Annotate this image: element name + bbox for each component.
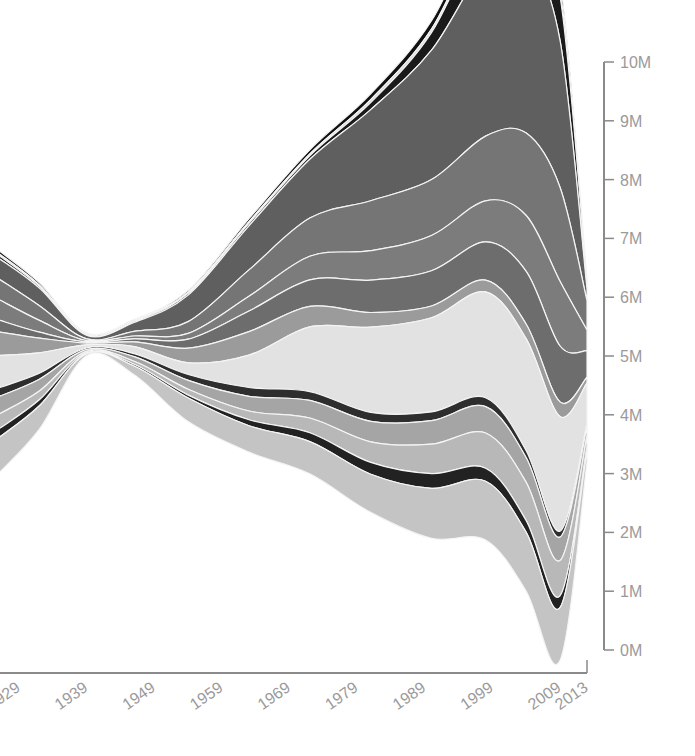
- stream-layers: [0, 0, 587, 665]
- x-tick-label: 1959: [187, 678, 226, 712]
- streamgraph-chart: 0M1M2M3M4M5M6M7M8M9M10M 1929193919491959…: [0, 0, 695, 756]
- x-tick-label: 1929: [0, 678, 23, 712]
- y-tick-label: 9M: [620, 113, 642, 130]
- y-tick-label: 0M: [620, 642, 642, 659]
- x-axis: 1929193919491959196919791989199920092013: [0, 660, 591, 713]
- x-tick-label: 1979: [322, 678, 361, 712]
- x-tick-label: 1949: [119, 678, 158, 712]
- y-tick-label: 2M: [620, 524, 642, 541]
- x-tick-label: 2013: [552, 678, 591, 712]
- y-tick-label: 5M: [620, 348, 642, 365]
- x-tick-label: 1989: [390, 678, 429, 712]
- y-tick-label: 6M: [620, 289, 642, 306]
- y-axis: 0M1M2M3M4M5M6M7M8M9M10M: [604, 54, 651, 659]
- y-tick-label: 7M: [620, 230, 642, 247]
- x-tick-label: 1999: [457, 678, 496, 712]
- y-tick-label: 1M: [620, 583, 642, 600]
- x-tick-label: 1939: [52, 678, 91, 712]
- y-tick-label: 4M: [620, 407, 642, 424]
- y-tick-label: 3M: [620, 466, 642, 483]
- x-tick-label: 1969: [254, 678, 293, 712]
- y-tick-label: 8M: [620, 172, 642, 189]
- y-tick-label: 10M: [620, 54, 651, 71]
